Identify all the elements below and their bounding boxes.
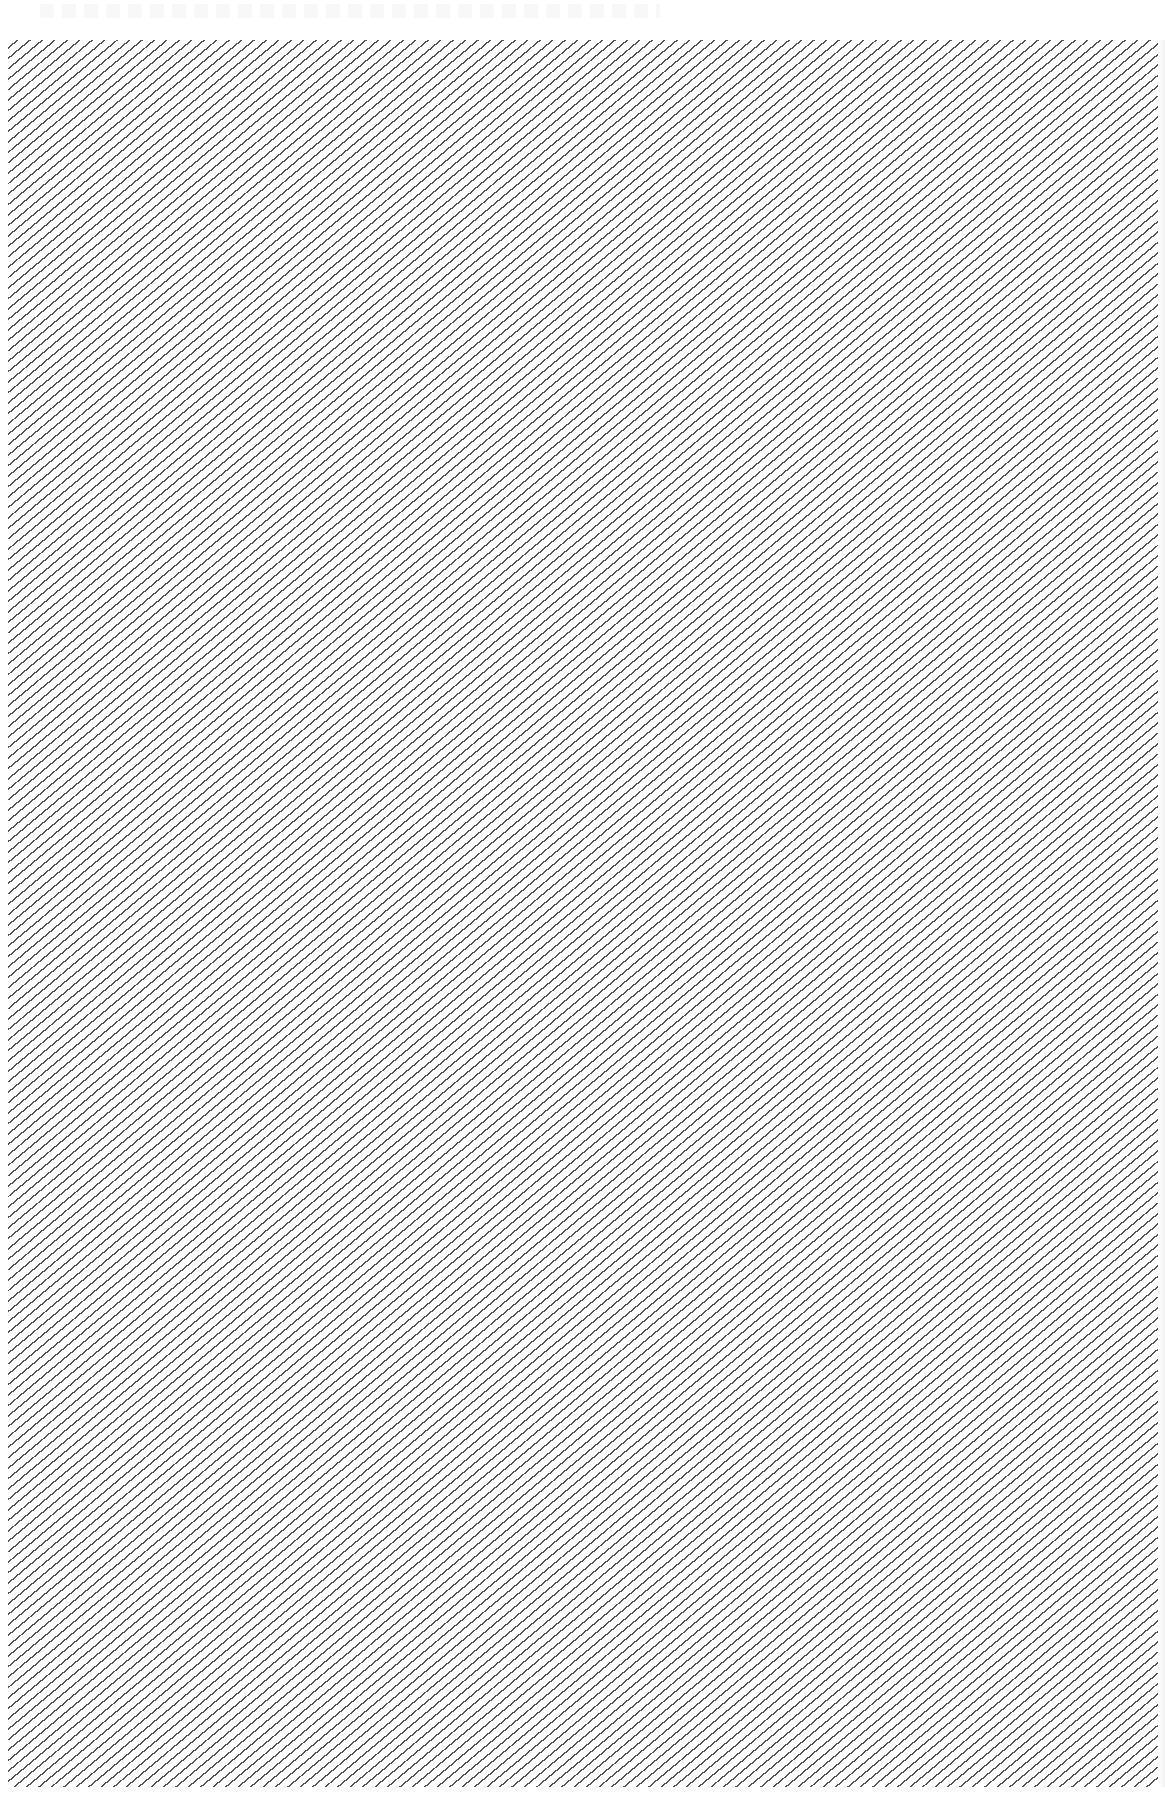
right-edge-shade bbox=[1158, 40, 1165, 1787]
hatched-placeholder-panel bbox=[8, 40, 1158, 1787]
faint-header-strip bbox=[40, 4, 660, 18]
